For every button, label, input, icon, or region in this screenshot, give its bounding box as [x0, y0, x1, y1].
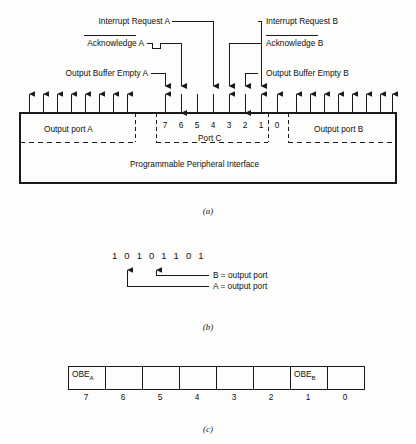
annotation-a-output-port: A = output port: [213, 281, 267, 291]
panel-a-lines: [0, 0, 416, 200]
panel-c-bit-3: 3: [228, 392, 240, 402]
label-output-buffer-empty-b: Output Buffer Empty B: [266, 68, 349, 78]
panel-c-table: [0, 360, 416, 430]
caption-c: (c): [188, 424, 228, 434]
overbar-acknowledge-a: [84, 35, 136, 36]
panel-c-bit-5: 5: [154, 392, 166, 402]
port-c-bit-3: 3: [223, 120, 235, 130]
panel-c-bit-1: 1: [302, 392, 314, 402]
panel-c-bit-7: 7: [80, 392, 92, 402]
label-acknowledge-a: Acknowledge A: [59, 38, 144, 48]
port-c-bit-1: 1: [255, 120, 267, 130]
panel-b-lines: [0, 240, 416, 360]
panel-c-bit-4: 4: [191, 392, 203, 402]
port-name-output-port-a: Output port A: [44, 124, 93, 134]
figure-root: Interrupt Request A Acknowledge A Output…: [0, 0, 416, 444]
label-interrupt-request-b: Interrupt Request B: [266, 16, 338, 26]
panel-c-bit-0: 0: [339, 392, 351, 402]
panel-c-cell-7-label: OBEA: [72, 369, 94, 381]
label-acknowledge-b: Acknowledge B: [266, 38, 323, 48]
annotation-b-output-port: B = output port: [213, 270, 268, 280]
caption-a: (a): [188, 206, 228, 216]
caption-b: (b): [188, 322, 228, 332]
panel-c-bit-6: 6: [117, 392, 129, 402]
port-c-bit-2: 2: [239, 120, 251, 130]
port-c-bit-4: 4: [207, 120, 219, 130]
port-c-bit-0: 0: [271, 120, 283, 130]
port-c-bit-5: 5: [191, 120, 203, 130]
device-label-ppi: Programmable Peripheral Interface: [130, 159, 259, 169]
port-c-bit-6: 6: [175, 120, 187, 130]
label-interrupt-request-a: Interrupt Request A: [68, 16, 170, 26]
label-output-buffer-empty-a: Output Buffer Empty A: [40, 68, 148, 78]
panel-c-cell-1-label: OBEB: [294, 369, 316, 381]
panel-c-bit-2: 2: [265, 392, 277, 402]
port-c-bit-7: 7: [159, 120, 171, 130]
overbar-acknowledge-b: [266, 35, 318, 36]
port-name-port-c: Port C: [198, 133, 222, 143]
port-name-output-port-b: Output port B: [314, 124, 363, 134]
